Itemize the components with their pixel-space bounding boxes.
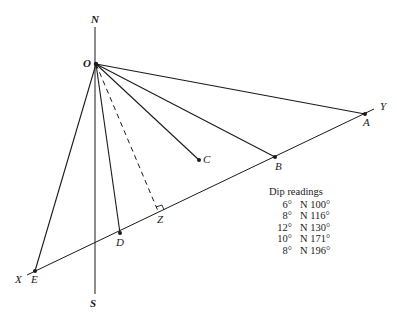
label-e: E [30, 273, 38, 285]
label-origin: O [83, 57, 91, 69]
label-d: D [115, 236, 124, 248]
dip-direction: N 116° [300, 210, 330, 222]
ray-oc [96, 64, 199, 160]
label-c: C [203, 153, 211, 165]
dip-row: 10° N 171° [266, 233, 330, 245]
dip-direction: N 171° [300, 233, 330, 245]
dip-row: 8° N 196° [266, 245, 330, 257]
dip-angle: 8° [266, 245, 292, 257]
label-y: Y [380, 100, 388, 112]
dip-readings-table: Dip readings 6° N 100° 8° N 116° 12° N 1… [266, 186, 330, 256]
point-c [197, 158, 201, 162]
perpendicular-oz [96, 64, 158, 211]
dip-row: 8° N 116° [266, 210, 330, 222]
dip-angle: 6° [266, 199, 292, 211]
dip-row: 12° N 130° [266, 222, 330, 234]
label-south: S [90, 297, 96, 309]
label-x: X [14, 273, 23, 285]
point-b [273, 155, 277, 159]
point-o [94, 62, 98, 66]
geology-dip-diagram: N S O X Y A B C D E Z [0, 0, 397, 319]
label-b: B [275, 160, 282, 172]
dip-angle: 10° [266, 233, 292, 245]
dip-angle: 12° [266, 222, 292, 234]
dip-readings-title: Dip readings [269, 186, 330, 198]
ray-oe [35, 64, 96, 271]
dip-direction: N 196° [300, 245, 330, 257]
label-north: N [90, 13, 100, 25]
ray-od [96, 64, 120, 233]
dip-row: 6° N 100° [266, 199, 330, 211]
label-a: A [362, 116, 370, 128]
dip-direction: N 130° [300, 222, 330, 234]
label-z: Z [157, 213, 164, 225]
dip-direction: N 100° [300, 199, 330, 211]
point-d [118, 231, 122, 235]
ray-ob [96, 64, 275, 157]
dip-angle: 8° [266, 210, 292, 222]
ray-oa [96, 64, 365, 114]
